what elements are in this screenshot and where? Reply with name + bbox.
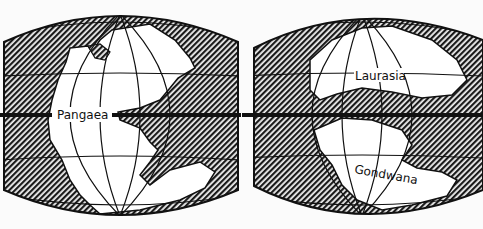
pangaea-globe-panel: Pangaea [0, 0, 241, 229]
equator-line-left [0, 113, 52, 117]
pangaea-globe: Pangaea [0, 0, 241, 229]
equator-line-right [112, 113, 241, 117]
equator-line [242, 113, 483, 117]
laurasia-gondwana-globe-panel: Laurasia Gondwana [242, 0, 483, 229]
laurasia-label: Laurasia [355, 69, 406, 83]
laurasia-gondwana-globe: Laurasia Gondwana [242, 0, 483, 229]
pangaea-label: Pangaea [57, 108, 108, 122]
